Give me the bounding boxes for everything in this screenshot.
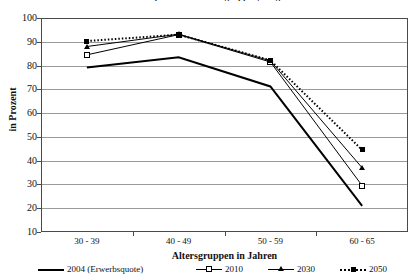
series-line [87, 35, 362, 186]
series-lines [0, 0, 416, 280]
legend-swatch [340, 264, 366, 274]
legend-swatch [268, 264, 294, 274]
legend-item[interactable]: 2010 [196, 262, 243, 276]
legend-label: 2050 [369, 264, 387, 274]
legend-item[interactable]: 2004 (Erwerbsquote) [38, 262, 143, 276]
data-point-marker [176, 32, 181, 37]
chart-legend: 2004 (Erwerbsquote)201020302050 [0, 262, 416, 278]
data-point-marker [360, 147, 365, 152]
data-point-marker [359, 165, 365, 170]
legend-item[interactable]: 2030 [268, 262, 315, 276]
data-point-marker [84, 52, 90, 58]
legend-label: 2030 [297, 264, 315, 274]
legend-marker-icon [278, 266, 284, 271]
series-line [87, 57, 362, 206]
legend-item[interactable]: 2050 [340, 262, 387, 276]
data-point-marker [359, 183, 365, 189]
legend-label: 2010 [225, 264, 243, 274]
legend-label: 2004 (Erwerbsquote) [67, 264, 143, 274]
data-point-marker [268, 58, 273, 63]
data-point-marker [84, 39, 89, 44]
series-line [87, 34, 362, 168]
data-point-marker [84, 44, 90, 49]
legend-marker-icon [351, 267, 356, 272]
series-line [87, 35, 362, 150]
chart-container: Erwerbsquoten nach Altersgruppen, Progno… [0, 0, 416, 280]
legend-swatch [196, 264, 222, 274]
legend-swatch [38, 264, 64, 274]
legend-marker-icon [206, 266, 212, 272]
